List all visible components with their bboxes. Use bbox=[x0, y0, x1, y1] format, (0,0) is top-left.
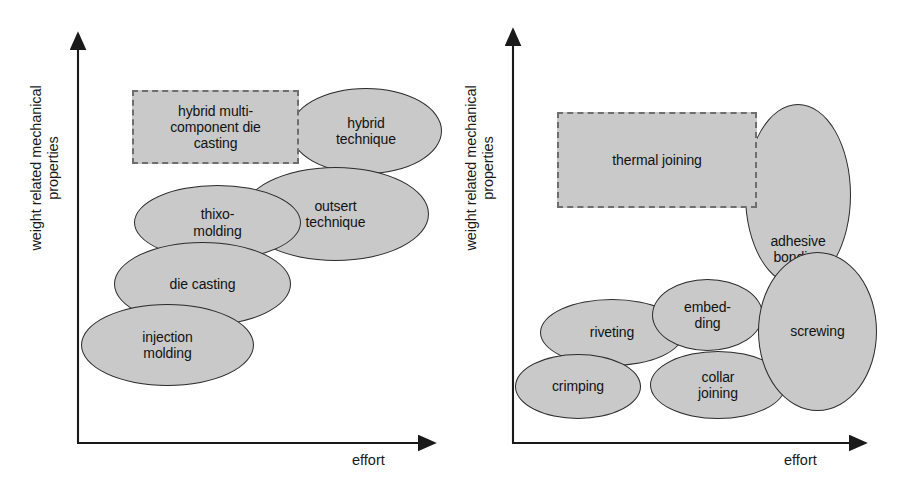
diagram-canvas: weight related mechanical properties eff… bbox=[0, 0, 903, 501]
node-embedding[interactable]: embed- ding bbox=[652, 279, 763, 351]
node-crimping-label: crimping bbox=[552, 378, 604, 394]
node-crimping[interactable]: crimping bbox=[515, 354, 641, 419]
panel-joining-processes: weight related mechanical properties eff… bbox=[451, 0, 903, 501]
node-thixo-molding-label: thixo- molding bbox=[193, 206, 241, 238]
left-y-axis-label: weight related mechanical properties bbox=[28, 18, 62, 318]
node-thermal-joining[interactable]: thermal joining bbox=[557, 112, 757, 208]
node-outsert-technique-label: outsert technique bbox=[306, 198, 366, 230]
node-hybrid-multicomponent-die-casting-label: hybrid multi- component die casting bbox=[170, 103, 261, 152]
node-screwing[interactable]: screwing bbox=[758, 252, 877, 411]
node-hybrid-multicomponent-die-casting[interactable]: hybrid multi- component die casting bbox=[132, 90, 299, 164]
node-embedding-label: embed- ding bbox=[684, 299, 731, 331]
left-y-axis-label-line2: properties bbox=[45, 18, 62, 318]
node-injection-molding[interactable]: injection molding bbox=[81, 304, 254, 386]
node-collar-joining-label: collar joining bbox=[698, 369, 738, 401]
node-die-casting-label: die casting bbox=[170, 276, 236, 292]
node-hybrid-technique[interactable]: hybrid technique bbox=[290, 88, 442, 174]
node-hybrid-technique-label: hybrid technique bbox=[336, 115, 396, 147]
node-thermal-joining-label: thermal joining bbox=[612, 152, 702, 168]
left-x-axis-label: effort bbox=[352, 452, 385, 468]
panel-forming-processes: weight related mechanical properties eff… bbox=[0, 0, 452, 501]
node-riveting-label: riveting bbox=[590, 324, 634, 340]
node-injection-molding-label: injection molding bbox=[142, 329, 192, 361]
right-x-axis-label: effort bbox=[784, 452, 817, 468]
left-y-axis-label-line1: weight related mechanical bbox=[28, 18, 45, 318]
right-y-axis-label-line1: weight related mechanical bbox=[463, 18, 480, 318]
right-y-axis-label-line2: properties bbox=[480, 18, 497, 318]
node-screwing-label: screwing bbox=[790, 323, 844, 339]
right-y-axis-label: weight related mechanical properties bbox=[463, 18, 497, 318]
